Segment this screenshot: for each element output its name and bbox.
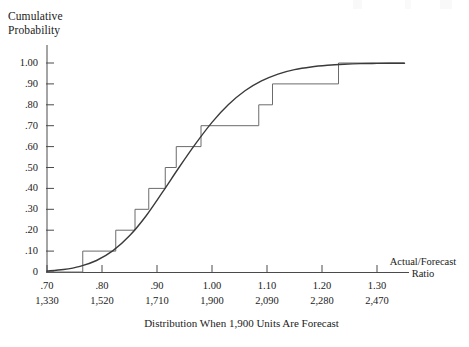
figure-caption-text: Distribution When 1,900 Units Are Foreca… <box>130 317 339 329</box>
x-tick-label-units: 2,090 <box>244 296 290 307</box>
smooth-cumulative-curve <box>47 63 405 271</box>
x-tick-label-ratio: .80 <box>79 281 125 292</box>
x-tick-label-units: 2,470 <box>354 296 400 307</box>
figure-caption: Distribution When 1,900 Units Are Foreca… <box>0 317 469 330</box>
x-tick-label-units: 1,520 <box>79 296 125 307</box>
y-tick-label: .40 <box>2 183 38 194</box>
y-tick-label: 0 <box>2 267 38 278</box>
plot-canvas <box>0 0 469 347</box>
y-tick-label: .90 <box>2 79 38 90</box>
y-tick-label: .70 <box>2 121 38 132</box>
x-tick-label-ratio: 1.00 <box>189 281 235 292</box>
x-tick-label-ratio: 1.20 <box>299 281 345 292</box>
x-tick-label-units: 1,330 <box>24 296 70 307</box>
y-tick-label: .80 <box>2 100 38 111</box>
x-tick-label-ratio: 1.10 <box>244 281 290 292</box>
x-tick-label-units: 2,280 <box>299 296 345 307</box>
y-tick-label: .20 <box>2 225 38 236</box>
empirical-step-curve <box>47 63 405 272</box>
y-tick-label: .60 <box>2 142 38 153</box>
y-tick-label: .30 <box>2 204 38 215</box>
x-tick-marks <box>47 265 377 273</box>
y-tick-label: .50 <box>2 163 38 174</box>
x-tick-label-ratio: .90 <box>134 281 180 292</box>
y-tick-label: .10 <box>2 246 38 257</box>
x-tick-label-units: 1,710 <box>134 296 180 307</box>
cumulative-probability-chart: Cumulative Probability Actual/Forecast R… <box>0 0 469 347</box>
y-tick-label: 1.00 <box>2 58 38 69</box>
axes-group <box>46 45 409 273</box>
x-tick-label-ratio: .70 <box>24 281 70 292</box>
x-tick-label-ratio: 1.30 <box>354 281 400 292</box>
x-tick-label-units: 1,900 <box>189 296 235 307</box>
